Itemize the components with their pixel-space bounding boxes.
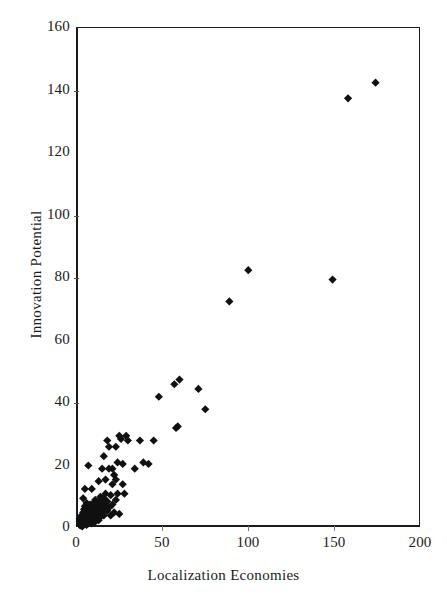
data-points-layer — [78, 28, 422, 528]
data-point — [84, 461, 92, 469]
data-point — [194, 385, 202, 393]
x-tick-label: 0 — [51, 533, 101, 551]
data-point — [344, 94, 352, 102]
data-point — [225, 297, 233, 305]
y-axis-title: Innovation Potential — [28, 165, 45, 385]
x-tick-label: 50 — [137, 533, 187, 551]
data-point — [103, 436, 111, 444]
data-point — [201, 405, 209, 413]
data-point — [150, 436, 158, 444]
data-point — [100, 452, 108, 460]
x-tick-label: 150 — [309, 533, 359, 551]
data-point — [119, 480, 127, 488]
scatter-chart: 160 140 120 100 80 60 40 20 0 Innovation… — [0, 0, 447, 604]
x-axis-tick-labels: 0 50 100 150 200 — [0, 533, 447, 557]
y-axis-title-wrap: Innovation Potential — [0, 0, 40, 604]
data-point — [88, 485, 96, 493]
x-tick-label: 200 — [395, 533, 445, 551]
data-point — [170, 380, 178, 388]
data-point — [112, 443, 120, 451]
data-point — [244, 266, 252, 274]
data-point — [175, 375, 183, 383]
data-point — [131, 465, 139, 473]
x-tick-label: 100 — [223, 533, 273, 551]
data-point — [101, 475, 109, 483]
data-point — [371, 79, 379, 87]
data-point — [120, 490, 128, 498]
plot-area — [76, 27, 420, 527]
data-point — [328, 275, 336, 283]
x-axis-title: Localization Economies — [0, 567, 447, 584]
data-point — [136, 436, 144, 444]
data-point — [95, 477, 103, 485]
data-point — [155, 393, 163, 401]
